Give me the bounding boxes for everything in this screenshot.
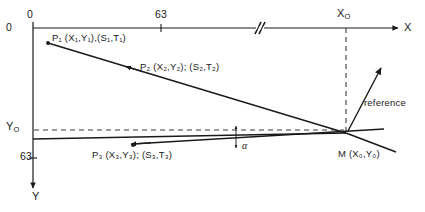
x-axis-tick-label-63: 63	[155, 9, 167, 20]
ray-m-left-lower	[33, 133, 346, 139]
angle-alpha-label: α	[242, 141, 247, 151]
point-marker-p3	[131, 143, 135, 147]
y-zero-base: Y	[6, 120, 14, 132]
x-axis-name-label: X	[404, 22, 412, 33]
point-label-p2: P₂ (X₂,Y₂); (S₂,T₂)	[140, 62, 219, 72]
ray-p1-to-m	[48, 43, 346, 133]
y-axis-tick-label-63: 63	[20, 151, 32, 162]
y-axis-name-label: Y	[32, 191, 40, 202]
point-marker-p1	[46, 41, 50, 45]
axis-break-icon	[255, 22, 265, 34]
x-axis-origin-label: 0	[27, 9, 33, 20]
point-label-m: M (X₀,Y₀)	[338, 149, 380, 159]
reference-direction-label: reference	[364, 98, 406, 108]
x-zero-axis-label: XO	[337, 8, 350, 19]
y-axis-origin-label: 0	[6, 22, 12, 33]
x-zero-subscript: O	[345, 12, 351, 21]
x-zero-base: X	[337, 7, 345, 19]
y-zero-axis-label: YO	[6, 121, 19, 132]
point-label-p1: P₁ (X₁,Y₁),(S₁,T₁)	[52, 33, 126, 43]
y-zero-subscript: O	[14, 125, 20, 134]
point-label-p3: P₃ (X₃,Y₃); (S₃,T₃)	[92, 150, 172, 160]
coordinate-diagram: 0 0 63 63 XO YO X Y P₁ (X₁,Y₁),(S₁,T₁) P…	[0, 0, 425, 212]
